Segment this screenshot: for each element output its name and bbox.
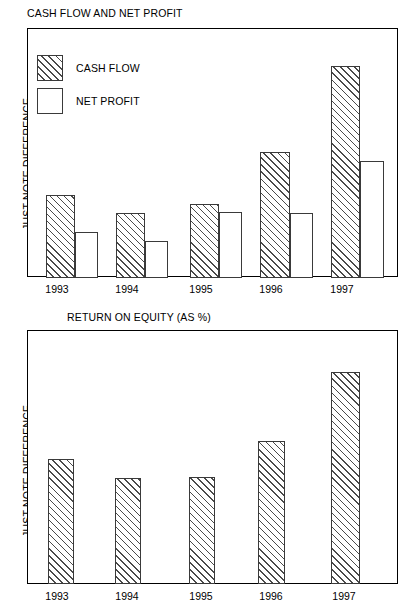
legend-label-net-profit: NET PROFIT — [76, 95, 140, 107]
bar-cash-flow-1997 — [331, 66, 360, 278]
x-tick-return-on-equity-1996: 1996 — [250, 590, 292, 602]
bar-return-on-equity-1996 — [258, 441, 285, 584]
x-tick-return-on-equity-1997: 1997 — [323, 590, 365, 602]
x-tick-return-on-equity-1994: 1994 — [106, 590, 148, 602]
bar-cash-flow-1995 — [190, 204, 219, 278]
legend-swatch-net-profit — [37, 88, 63, 114]
x-tick-cash-flow-1996: 1996 — [250, 283, 292, 295]
x-tick-return-on-equity-1993: 1993 — [36, 590, 78, 602]
figure-root: CASH FLOW AND NET PROFIT JUST NOTE DIFFE… — [0, 0, 414, 614]
x-tick-cash-flow-1995: 1995 — [180, 283, 222, 295]
x-tick-cash-flow-1993: 1993 — [36, 283, 78, 295]
chart-title-return-on-equity: RETURN ON EQUITY (AS %) — [67, 311, 211, 323]
bar-cash-flow-1994 — [116, 213, 145, 278]
x-tick-cash-flow-1994: 1994 — [106, 283, 148, 295]
bar-net-profit-1994 — [145, 241, 168, 278]
bar-return-on-equity-1995 — [189, 477, 215, 584]
bar-cash-flow-1993 — [46, 195, 75, 278]
x-tick-return-on-equity-1995: 1995 — [180, 590, 222, 602]
bar-net-profit-1993 — [75, 232, 98, 278]
bar-cash-flow-1996 — [260, 152, 290, 278]
bar-return-on-equity-1994 — [115, 478, 141, 584]
bar-net-profit-1996 — [290, 213, 313, 278]
bar-net-profit-1997 — [360, 161, 384, 278]
x-tick-cash-flow-1997: 1997 — [321, 283, 363, 295]
chart-title-cash-flow: CASH FLOW AND NET PROFIT — [27, 7, 183, 19]
bar-return-on-equity-1997 — [331, 372, 360, 584]
bar-return-on-equity-1993 — [48, 459, 74, 584]
legend-swatch-cash-flow — [37, 55, 63, 81]
legend-label-cash-flow: CASH FLOW — [76, 62, 140, 74]
bar-net-profit-1995 — [219, 212, 242, 278]
